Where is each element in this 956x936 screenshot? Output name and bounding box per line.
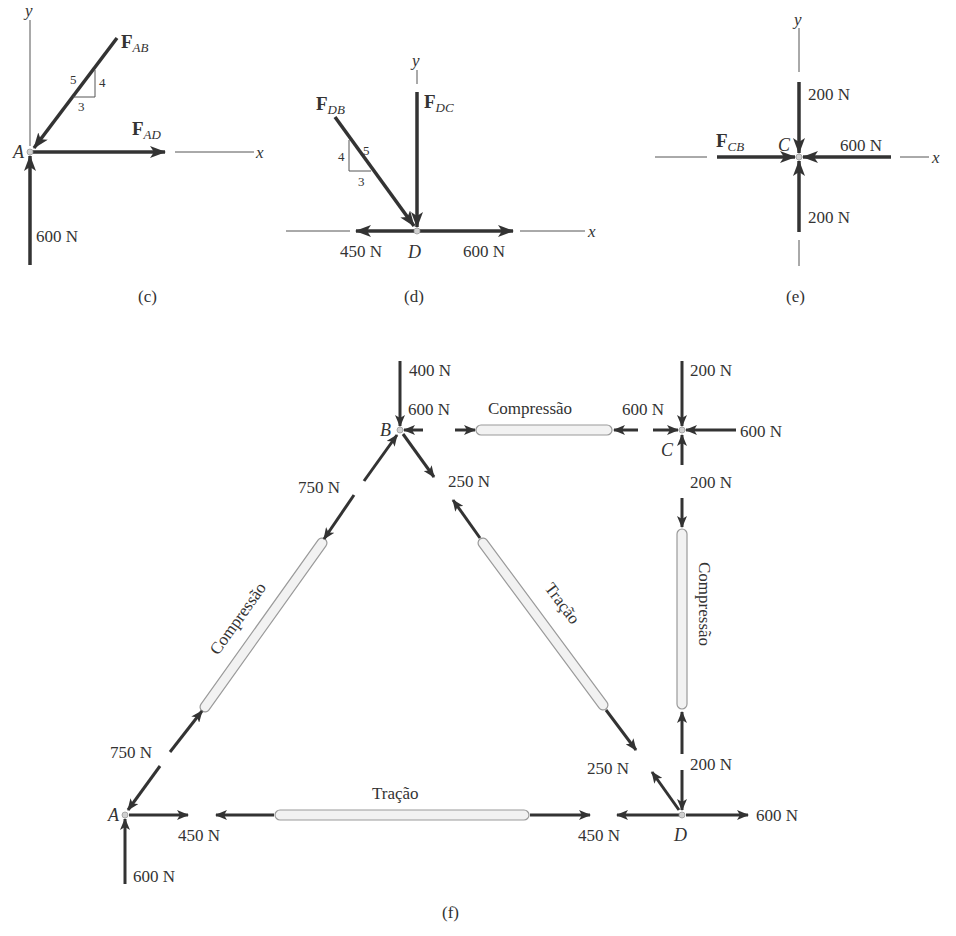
panel-e-joint-c-fbd: y x 200 N 200 N FCB 600 N C (e) [655, 10, 940, 306]
member-bd: Tração 250 N 250 N [403, 434, 679, 810]
slope-rise: 4 [338, 149, 345, 164]
load-b-top-label: 400 N [409, 361, 451, 380]
top-force-label: 200 N [808, 85, 850, 104]
bc-force-c-label: 600 N [622, 400, 664, 419]
bd-arrow-on-member-top [453, 500, 480, 538]
joint-d-label: D [407, 242, 421, 262]
bd-arrow-on-joint-d [652, 772, 679, 810]
y-axis-label: y [23, 1, 33, 20]
force-db-arrow [335, 117, 414, 226]
ab-force-b-label: 750 N [298, 478, 340, 497]
slope-rise: 4 [99, 75, 106, 90]
ad-force-d-label: 450 N [578, 826, 620, 845]
joint-c-label: C [661, 440, 674, 460]
load-a-bottom-label: 600 N [133, 867, 175, 886]
x-axis-label: x [587, 222, 596, 241]
member-bc-state: Compressão [488, 399, 572, 418]
truss-free-body-diagrams: y x FAB 5 4 3 FAD 600 N A (c) y x FDC FD… [0, 0, 956, 936]
bottom-force-label: 200 N [808, 208, 850, 227]
force-db-label: FDB [316, 93, 345, 117]
force-dc-label: FDC [424, 91, 454, 115]
member-ab: Compressão 750 N 750 N [110, 435, 397, 810]
reaction-label: 600 N [36, 227, 78, 246]
bd-force-b-label: 250 N [448, 472, 490, 491]
joint-a-label: A [12, 142, 25, 162]
ab-force-a-label: 750 N [110, 743, 152, 762]
panel-c-joint-a-fbd: y x FAB 5 4 3 FAD 600 N A (c) [12, 1, 264, 306]
joint-b-label: B [380, 420, 391, 440]
caption-c: (c) [138, 287, 157, 306]
member-ab-state: Compressão [206, 579, 270, 658]
caption-e: (e) [786, 287, 805, 306]
member-bc: Compressão 600 N 600 N [404, 399, 678, 435]
load-c-right-label: 600 N [740, 422, 782, 441]
panel-d-joint-d-fbd: y x FDC FDB 4 5 3 450 N 600 N D (d) [286, 51, 596, 306]
joint-d [679, 812, 685, 818]
x-axis-label: x [931, 148, 940, 167]
joint-d [414, 228, 420, 234]
cd-force-d-label: 200 N [690, 755, 732, 774]
joint-c-label: C [778, 135, 791, 155]
slope-run: 3 [358, 174, 365, 189]
left-force-label: 450 N [340, 242, 382, 261]
force-cb-label: FCB [716, 130, 744, 154]
ab-arrow-on-member-top [324, 495, 354, 539]
joint-a [27, 149, 33, 155]
joint-b [397, 427, 403, 433]
force-ad-label: FAD [132, 118, 162, 142]
joint-c [796, 154, 802, 160]
member-ad: Tração 450 N 450 N [129, 784, 679, 845]
right-force-label: 600 N [840, 136, 882, 155]
bd-arrow-on-joint-b [403, 434, 434, 477]
bd-force-d-label: 250 N [587, 759, 629, 778]
joint-c [679, 427, 685, 433]
slope-hyp: 5 [70, 72, 77, 87]
load-d-right-label: 600 N [756, 806, 798, 825]
caption-d: (d) [404, 287, 424, 306]
ab-arrow-on-member-bottom [170, 711, 202, 752]
ad-force-a-label: 450 N [178, 826, 220, 845]
x-axis-label: x [255, 143, 264, 162]
force-ab-arrow [34, 38, 117, 148]
y-axis-label: y [792, 10, 802, 29]
member-ad-state: Tração [372, 784, 419, 803]
slope-run: 3 [78, 99, 85, 114]
load-c-top-label: 200 N [690, 361, 732, 380]
panel-f-truss-summary: Compressão 600 N 600 N Compressão 750 N … [107, 361, 798, 922]
bc-force-b-label: 600 N [408, 400, 450, 419]
ab-arrow-on-joint-a [128, 766, 160, 810]
joint-a [122, 812, 128, 818]
slope-hyp: 5 [363, 143, 370, 158]
caption-f: (f) [442, 903, 459, 922]
member-cd: Compressão 200 N 200 N [677, 435, 732, 810]
ab-arrow-on-joint-b [364, 435, 397, 481]
joint-a-label: A [107, 805, 120, 825]
joint-d-label: D [673, 825, 687, 845]
cd-force-c-label: 200 N [690, 473, 732, 492]
y-axis-label: y [410, 51, 420, 70]
force-ab-label: FAB [121, 31, 149, 55]
right-force-label: 600 N [463, 242, 505, 261]
member-cd-state: Compressão [695, 562, 714, 646]
bd-arrow-on-member-bottom [606, 710, 636, 750]
